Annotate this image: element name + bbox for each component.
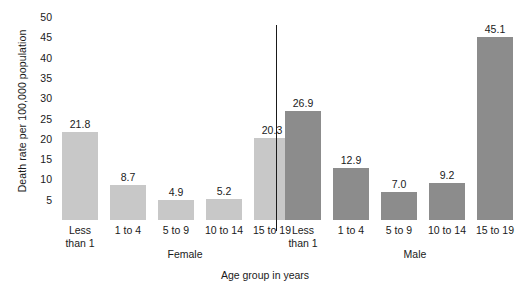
bar-value-label: 5.2 [197, 186, 251, 197]
bar-rect [285, 111, 321, 220]
category-label-line2: than 1 [275, 237, 331, 250]
bar-value-label: 45.1 [468, 24, 522, 35]
category-label-line2: than 1 [52, 237, 108, 250]
bar-rect [62, 132, 98, 221]
bar-value-label: 8.7 [101, 172, 155, 183]
bar-rect [381, 192, 417, 220]
group-label-female: Female [125, 248, 245, 260]
bar-rect [333, 168, 369, 220]
bar-chart: Death rate per 100,000 population 504540… [0, 0, 530, 296]
group-label-male: Male [355, 248, 475, 260]
bar-value-label: 7.0 [372, 179, 426, 190]
bar-value-label: 9.2 [420, 170, 474, 181]
category-label-line1: 15 to 19 [467, 224, 523, 237]
bar-rect [429, 183, 465, 220]
bar-rect [206, 199, 242, 220]
bar-rect [477, 37, 513, 220]
bar-value-label: 4.9 [149, 187, 203, 198]
bar-value-label: 21.8 [53, 119, 107, 130]
x-axis-title: Age group in years [155, 269, 375, 281]
x-axis-category-label: 15 to 19 [467, 220, 523, 237]
bar-rect [110, 185, 146, 220]
bar-rect [158, 200, 194, 220]
bar-value-label: 12.9 [324, 155, 378, 166]
group-divider-line [276, 25, 277, 231]
bar-value-label: 26.9 [276, 98, 330, 109]
